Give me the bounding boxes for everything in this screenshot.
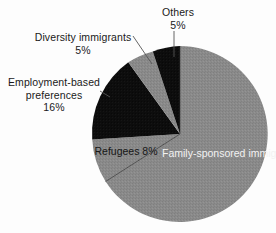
- slice-label-employment-based-preferences-line2: preferences: [2, 89, 106, 102]
- slice-label-others-text: Others: [162, 6, 194, 18]
- slice-value-others: 5%: [146, 19, 210, 32]
- pie-chart-figure: Others 5% Diversity immigrants 5% Employ…: [0, 0, 276, 233]
- slice-label-employment-based-preferences: Employment-based preferences 16%: [2, 76, 106, 114]
- slice-value-refugees: 8%: [142, 145, 157, 157]
- pie-slices: [92, 46, 268, 222]
- slice-label-family-sponsored-immigrants-line2: immigrants: [248, 147, 276, 159]
- slice-label-family-sponsored-immigrants: Family-sponsored immigrants 66%: [162, 147, 264, 160]
- slice-label-refugees-text: Refugees: [94, 145, 139, 157]
- slice-value-diversity-immigrants: 5%: [22, 44, 144, 57]
- slice-label-others: Others 5%: [146, 6, 210, 31]
- slice-label-diversity-immigrants-text: Diversity immigrants: [35, 31, 132, 43]
- slice-label-refugees: Refugees 8%: [94, 145, 158, 158]
- slice-label-family-sponsored-immigrants-line1: Family-sponsored: [162, 147, 245, 159]
- slice-label-employment-based-preferences-line1: Employment-based: [8, 76, 100, 88]
- slice-value-employment-based-preferences: 16%: [2, 101, 106, 114]
- slice-label-diversity-immigrants: Diversity immigrants 5%: [22, 31, 144, 56]
